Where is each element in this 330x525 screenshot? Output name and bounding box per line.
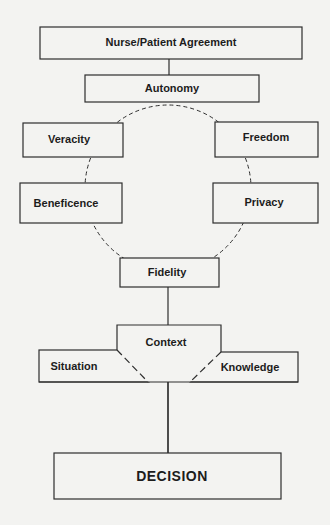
beneficence-label: Beneficence bbox=[34, 197, 99, 209]
context-label: Context bbox=[146, 336, 187, 348]
freedom-label: Freedom bbox=[243, 131, 289, 143]
privacy-label: Privacy bbox=[244, 196, 283, 208]
diagram-canvas bbox=[0, 0, 330, 525]
agreement-label: Nurse/Patient Agreement bbox=[105, 36, 236, 48]
fidelity-label: Fidelity bbox=[148, 266, 187, 278]
veracity-label: Veracity bbox=[48, 133, 90, 145]
autonomy-label: Autonomy bbox=[145, 82, 199, 94]
knowledge-label: Knowledge bbox=[221, 361, 280, 373]
situation-label: Situation bbox=[50, 360, 97, 372]
decision-label: DECISION bbox=[136, 468, 208, 484]
